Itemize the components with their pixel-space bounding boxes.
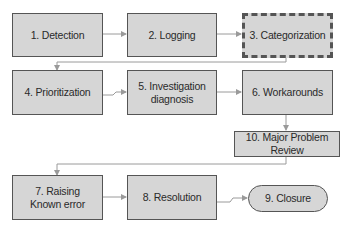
- node-label: 1. Detection: [31, 29, 85, 42]
- node-raising-known-error: 7. Raising Known error: [12, 175, 103, 220]
- node-label: 6. Workarounds: [252, 86, 323, 99]
- edge-3-4: [57, 58, 286, 70]
- node-label: 5. Investigation diagnosis: [138, 80, 205, 105]
- edge-4-5: [103, 92, 126, 95]
- node-label: 4. Prioritization: [24, 86, 90, 99]
- node-label: 3. Categorization: [250, 29, 326, 42]
- node-prioritization: 4. Prioritization: [12, 70, 103, 115]
- node-investigation-diagnosis: 5. Investigation diagnosis: [127, 70, 217, 115]
- node-closure: 9. Closure: [248, 185, 328, 212]
- node-label: 10. Major Problem Review: [235, 131, 339, 156]
- node-detection: 1. Detection: [12, 13, 103, 57]
- node-categorization: 3. Categorization: [242, 13, 333, 58]
- node-major-problem-review: 10. Major Problem Review: [234, 131, 340, 157]
- node-resolution: 8. Resolution: [127, 175, 217, 220]
- node-label: 9. Closure: [265, 192, 311, 205]
- node-workarounds: 6. Workarounds: [242, 70, 333, 115]
- node-logging: 2. Logging: [127, 13, 217, 57]
- edge-8-9: [217, 198, 247, 202]
- node-label: 2. Logging: [148, 29, 195, 42]
- node-label: 8. Resolution: [143, 191, 202, 204]
- node-label: 7. Raising Known error: [30, 185, 85, 210]
- edge-10-7: [57, 157, 286, 175]
